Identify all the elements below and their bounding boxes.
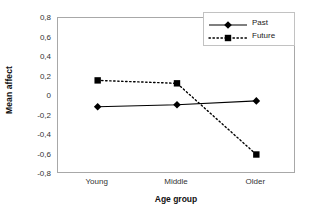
x-tick-label: Older xyxy=(246,177,266,186)
y-tick-label: 0,2 xyxy=(40,71,51,80)
chart-legend: PastFuture xyxy=(203,12,295,46)
legend-sample xyxy=(208,30,248,42)
y-tick-label: -0,2 xyxy=(37,110,51,119)
square-marker xyxy=(253,151,259,157)
diamond-marker xyxy=(224,21,232,29)
y-tick-label: 0,6 xyxy=(40,32,51,41)
x-tick-label: Middle xyxy=(164,177,188,186)
diamond-marker xyxy=(94,103,102,111)
square-marker xyxy=(174,80,180,86)
y-axis-title-label: Mean affect xyxy=(4,66,14,114)
y-tick-label: 0,8 xyxy=(40,13,51,22)
square-marker xyxy=(225,34,231,40)
square-marker xyxy=(94,77,100,83)
y-tick-label: 0 xyxy=(47,91,51,100)
legend-item-future[interactable]: Future xyxy=(208,29,290,42)
legend-label: Future xyxy=(248,31,275,40)
legend-label: Past xyxy=(248,18,268,27)
x-axis-title-label: Age group xyxy=(155,194,198,204)
y-axis-tick-labels: 0,80,60,40,20-0,2-0,4-0,6-0,8 xyxy=(20,12,54,172)
y-tick-label: -0,6 xyxy=(37,149,51,158)
diamond-marker xyxy=(253,97,261,105)
x-axis-title: Age group xyxy=(57,194,295,204)
y-tick-label: -0,4 xyxy=(37,130,51,139)
legend-item-past[interactable]: Past xyxy=(208,16,290,29)
dotted-line xyxy=(98,80,257,154)
series-future xyxy=(94,77,259,158)
x-axis-tick-labels: YoungMiddleOlder xyxy=(57,177,295,191)
y-tick-label: 0,4 xyxy=(40,52,51,61)
diamond-marker xyxy=(173,101,181,109)
y-tick-label: -0,8 xyxy=(37,169,51,178)
legend-sample xyxy=(208,17,248,29)
y-axis-title: Mean affect xyxy=(0,0,18,180)
series-past xyxy=(94,97,260,110)
line-chart: Mean affect 0,80,60,40,20-0,2-0,4-0,6-0,… xyxy=(0,0,319,215)
x-tick-label: Young xyxy=(85,177,107,186)
